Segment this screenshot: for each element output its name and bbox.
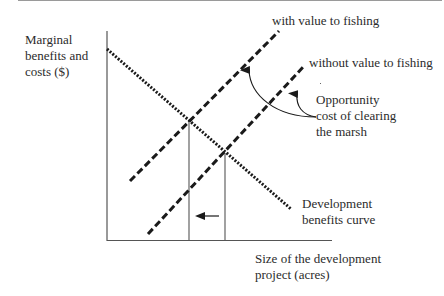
y-axis-label-line-2: benefits and	[25, 48, 88, 64]
development-benefits-curve	[107, 49, 291, 209]
development-benefits-label: Development benefits curve	[302, 196, 375, 228]
without-fishing-value-label: without value to fishing	[309, 55, 433, 71]
y-axis-label-line-3: costs ($)	[25, 64, 88, 80]
x-axis-label: Size of the development project (acres)	[255, 251, 381, 283]
x-axis-label-line-2: project (acres)	[255, 267, 381, 283]
y-axis-label-line-1: Marginal	[25, 32, 88, 48]
opportunity-cost-line-2: cost of clearing	[316, 108, 396, 124]
opportunity-cost-line-1: Opportunity	[316, 92, 396, 108]
opportunity-cost-label: Opportunity cost of clearing the marsh	[316, 92, 396, 140]
with-fishing-value-label: with value to fishing	[272, 13, 379, 29]
shift-left-arrow-icon	[195, 212, 219, 220]
opportunity-cost-arrow-long	[249, 70, 316, 117]
development-benefits-line-1: Development	[302, 196, 375, 212]
cost-curve-without-fishing-value	[148, 65, 305, 234]
stray-dot	[320, 83, 321, 84]
development-benefits-line-2: benefits curve	[302, 212, 375, 228]
opportunity-cost-arrow-short	[297, 94, 316, 117]
y-axis-label: Marginal benefits and costs ($)	[25, 32, 88, 80]
cost-curve-with-fishing-value	[130, 31, 279, 181]
opportunity-cost-line-3: the marsh	[316, 124, 396, 140]
x-axis-label-line-1: Size of the development	[255, 251, 381, 267]
